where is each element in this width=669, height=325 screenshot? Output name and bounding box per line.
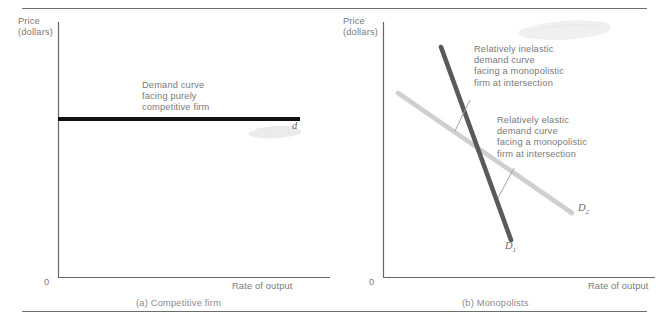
panel-a-caption: (a) Competitive firm (136, 298, 221, 308)
panel-a-annotation-demand-curve: Demand curve facing purely competitive f… (142, 80, 210, 114)
panel-b-origin-label: 0 (369, 277, 374, 287)
panel-a-y-axis-label: Price (dollars) (18, 16, 53, 38)
panel-b-y-axis-label: Price (dollars) (343, 16, 378, 38)
panel-b-curve-label-d2: D2 (578, 202, 589, 216)
panel-b-curve-label-d1-letter: D (505, 240, 513, 251)
top-divider-rule (22, 8, 647, 9)
figure-container: Price (dollars) Rate of output 0 Demand … (0, 0, 669, 325)
panel-b-curve-label-d2-letter: D (578, 202, 586, 213)
panel-a-x-axis-label: Rate of output (232, 281, 293, 292)
panel-b-annotation-elastic: Relatively elastic demand curve facing a… (497, 115, 587, 160)
panel-b-curve-label-d1-subscript: 1 (513, 246, 517, 254)
panel-b-scan-artifact (518, 20, 610, 40)
panel-b-curve-label-d2-subscript: 2 (586, 208, 590, 216)
figure-graphics (0, 0, 669, 325)
panel-b-caption: (b) Monopolists (462, 298, 529, 308)
panel-a-curve-label-d: d (292, 120, 297, 131)
panel-b-curve-label-d1: D1 (505, 240, 516, 254)
panel-b-leader-line-elastic (498, 168, 514, 198)
panel-b-x-axis-label: Rate of output (588, 281, 649, 292)
panel-b-leader-line-inelastic (455, 100, 470, 131)
panel-b-annotation-inelastic: Relatively inelastic demand curve facing… (474, 44, 564, 89)
panel-a-origin-label: 0 (44, 277, 49, 287)
bottom-divider-rule (22, 311, 647, 312)
